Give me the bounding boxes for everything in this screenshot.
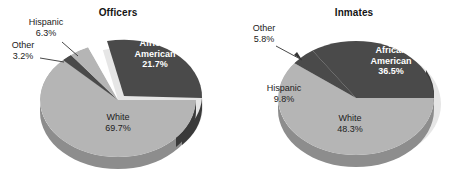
slice-label-other-officers-name: Other: [0, 40, 46, 51]
leader-line-other-inmates: [276, 46, 302, 60]
slice-label-african-american-officers-pct: 21.7%: [118, 59, 192, 70]
leader-line-hispanic-officers: [62, 42, 78, 56]
slice-label-hispanic-officers: Hispanic 6.3%: [14, 17, 78, 38]
figure-canvas: Officers: [0, 0, 472, 186]
slice-label-african-american-officers-line2: American: [118, 49, 192, 60]
slice-label-hispanic-inmates-pct: 9.8%: [256, 94, 312, 105]
slice-label-other-inmates-name: Other: [240, 23, 288, 34]
slice-label-african-american-officers: African American 21.7%: [118, 38, 192, 70]
slice-label-other-officers: Other 3.2%: [0, 40, 46, 61]
slice-label-african-american-inmates-line2: American: [354, 56, 428, 67]
slice-label-white-officers-pct: 69.7%: [88, 123, 148, 134]
slice-label-other-inmates: Other 5.8%: [240, 23, 288, 44]
slice-label-hispanic-officers-name: Hispanic: [14, 17, 78, 28]
slice-label-white-officers-name: White: [88, 112, 148, 123]
slice-label-white-inmates-name: White: [320, 113, 380, 124]
slice-label-white-officers: White 69.7%: [88, 112, 148, 133]
slice-label-african-american-inmates: African American 36.5%: [354, 45, 428, 77]
slice-label-african-american-inmates-pct: 36.5%: [354, 66, 428, 77]
slice-label-other-inmates-pct: 5.8%: [240, 34, 288, 45]
slice-label-hispanic-officers-pct: 6.3%: [14, 28, 78, 39]
slice-label-african-american-inmates-line1: African: [354, 45, 428, 56]
pie-chart-officers: Officers: [0, 0, 236, 186]
pie-chart-inmates: Inmates: [236, 0, 472, 186]
slice-label-other-officers-pct: 3.2%: [0, 51, 46, 62]
slice-label-hispanic-inmates-name: Hispanic: [256, 83, 312, 94]
slice-label-hispanic-inmates: Hispanic 9.8%: [256, 83, 312, 104]
slice-label-white-inmates-pct: 48.3%: [320, 124, 380, 135]
slice-label-white-inmates: White 48.3%: [320, 113, 380, 134]
slice-label-african-american-officers-line1: African: [118, 38, 192, 49]
